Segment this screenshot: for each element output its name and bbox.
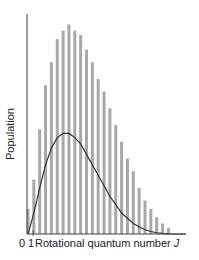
bar-j-6: [62, 31, 65, 234]
bar-j-16: [120, 142, 123, 234]
x-axis-label: Rotational quantum number J: [35, 237, 179, 249]
bar-j-21: [149, 209, 152, 234]
population-bars: [27, 24, 170, 234]
bar-j-9: [79, 35, 82, 234]
x-axis-label-var: J: [174, 237, 180, 249]
bar-j-8: [73, 31, 76, 234]
bar-j-23: [161, 224, 164, 234]
x-tick-label-1: 1: [28, 237, 34, 249]
x-axis-label-text: Rotational quantum number: [35, 237, 171, 249]
y-axis-label: Population: [4, 100, 18, 160]
bar-j-7: [67, 24, 70, 234]
bar-j-24: [167, 228, 170, 234]
bar-j-17: [126, 159, 129, 234]
bar-j-15: [114, 125, 117, 234]
bar-j-11: [91, 62, 94, 234]
bar-j-12: [97, 79, 100, 234]
x-tick-label-0: 0: [19, 237, 25, 249]
bar-j-13: [103, 92, 106, 234]
bar-j-14: [108, 108, 111, 234]
bar-j-22: [155, 217, 158, 234]
population-chart: Population 0 1 Rotational quantum number…: [0, 0, 199, 260]
bar-j-3: [44, 85, 47, 234]
bar-j-10: [85, 50, 88, 234]
plot-area: [0, 0, 199, 260]
